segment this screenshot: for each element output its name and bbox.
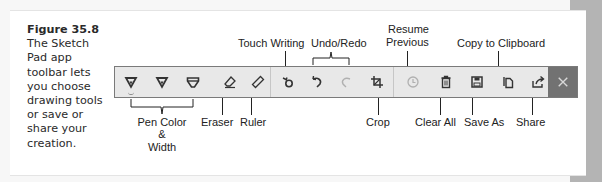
close-icon <box>557 76 569 88</box>
eraser-icon <box>223 75 237 89</box>
resume-previous-button[interactable] <box>398 67 428 97</box>
callout-pen-amp: & <box>134 128 190 140</box>
crop-icon <box>370 75 384 89</box>
callout-line <box>440 98 441 115</box>
redo-button[interactable] <box>331 67 361 97</box>
eraser-button[interactable] <box>215 67 245 97</box>
crop-button[interactable] <box>362 67 392 97</box>
toolbar-divider <box>393 67 394 97</box>
trash-icon <box>439 75 453 89</box>
callout-copy-to-clipboard: Copy to Clipboard <box>457 37 545 49</box>
highlighter-icon <box>186 75 200 89</box>
selected-indicator <box>128 91 134 95</box>
figure-caption: Figure 35.8 The Sketch Pad app toolbar l… <box>27 23 107 151</box>
callout-line <box>472 98 473 115</box>
sketch-pad-toolbar <box>114 66 578 98</box>
callout-line <box>251 98 252 115</box>
highlighter-button[interactable] <box>178 67 208 97</box>
callout-line <box>407 51 408 66</box>
share-icon <box>531 75 545 89</box>
callout-crop: Crop <box>366 116 390 128</box>
callout-line <box>378 98 379 115</box>
copy-button[interactable] <box>493 67 523 97</box>
callout-ruler: Ruler <box>240 116 266 128</box>
callout-resume: Resume <box>388 23 429 35</box>
callout-touch-writing: Touch Writing <box>238 37 304 49</box>
pen-icon <box>124 75 138 89</box>
callout-pen-color: Pen Color <box>134 116 190 128</box>
callout-brace <box>312 50 350 66</box>
figure-number: Figure 35.8 <box>27 23 107 37</box>
callout-pen-width: Width <box>134 141 190 153</box>
caption-text: The Sketch Pad app toolbar lets you choo… <box>27 37 103 149</box>
callout-eraser: Eraser <box>201 116 233 128</box>
callout-clear-all: Clear All <box>415 116 456 128</box>
redo-icon <box>339 75 353 89</box>
touch-writing-button[interactable] <box>273 67 303 97</box>
toolbar-divider <box>270 67 271 97</box>
callout-previous: Previous <box>386 36 429 48</box>
pen-icon <box>155 75 169 89</box>
callout-share: Share <box>516 116 545 128</box>
callout-save-as: Save As <box>464 116 504 128</box>
clear-all-button[interactable] <box>431 67 461 97</box>
pen-button-1[interactable] <box>116 67 146 97</box>
copy-icon <box>501 75 515 89</box>
callout-line <box>532 98 533 115</box>
callout-brace <box>130 98 194 116</box>
ruler-button[interactable] <box>243 67 273 97</box>
pen-button-2[interactable] <box>147 67 177 97</box>
callout-line <box>222 98 223 115</box>
callout-line <box>285 51 286 66</box>
callout-undo-redo: Undo/Redo <box>311 37 367 49</box>
save-as-button[interactable] <box>462 67 492 97</box>
history-icon <box>406 75 420 89</box>
callout-line <box>498 51 499 66</box>
save-icon <box>470 75 484 89</box>
undo-button[interactable] <box>302 67 332 97</box>
ruler-icon <box>251 75 265 89</box>
close-button[interactable] <box>548 67 577 97</box>
touch-writing-icon <box>281 75 295 89</box>
undo-icon <box>310 75 324 89</box>
